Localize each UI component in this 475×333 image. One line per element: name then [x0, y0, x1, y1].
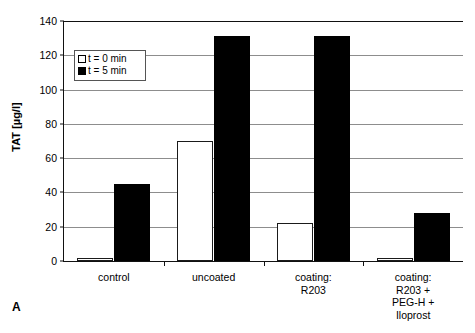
gridline-140	[64, 21, 463, 22]
y-tick-label-20: 20	[45, 221, 57, 233]
x-category-line: R203 +	[363, 284, 463, 297]
y-tick-mark-100	[60, 89, 64, 90]
x-category-label-2: uncoated	[164, 271, 264, 284]
x-category-line: coating:	[363, 271, 463, 284]
panel-label: A	[12, 300, 21, 314]
bar-t5-group1	[114, 184, 150, 261]
y-tick-mark-0	[60, 261, 64, 262]
legend-swatch-open-square-icon	[78, 55, 86, 63]
y-tick-label-80: 80	[45, 118, 57, 130]
x-category-label-4: coating:R203 +PEG-H +Iloprost	[363, 271, 463, 321]
bar-t5-group4	[414, 213, 450, 261]
bar-t0-group2	[177, 141, 213, 261]
y-tick-mark-80	[60, 123, 64, 124]
y-tick-mark-60	[60, 158, 64, 159]
legend-entry-t0: t = 0 min	[78, 53, 142, 65]
y-tick-label-60: 60	[45, 152, 57, 164]
legend-entry-t5: t = 5 min	[78, 65, 142, 77]
chart-legend: t = 0 min t = 5 min	[74, 50, 146, 81]
x-category-line: uncoated	[164, 271, 264, 284]
legend-label-t5: t = 5 min	[88, 65, 127, 77]
x-category-line: coating:	[264, 271, 364, 284]
x-category-line: PEG-H +	[363, 296, 463, 309]
x-category-line: Iloprost	[363, 309, 463, 322]
bar-t5-group3	[314, 36, 350, 261]
y-tick-label-0: 0	[51, 255, 57, 267]
x-category-line: control	[64, 271, 164, 284]
x-category-line: R203	[264, 284, 364, 297]
x-axis-separator-2	[264, 261, 265, 266]
gridline-80	[64, 124, 463, 125]
figure-panel-a: TAT [µg/l] 020406080100120140controlunco…	[0, 0, 475, 333]
y-tick-label-40: 40	[45, 186, 57, 198]
x-axis-separator-1	[164, 261, 165, 266]
y-tick-label-120: 120	[39, 49, 57, 61]
y-tick-mark-40	[60, 192, 64, 193]
x-axis-separator-3	[363, 261, 364, 266]
y-tick-mark-20	[60, 226, 64, 227]
x-category-label-3: coating:R203	[264, 271, 364, 296]
y-axis-title: TAT [µg/l]	[10, 67, 22, 187]
gridline-100	[64, 90, 463, 91]
y-tick-label-100: 100	[39, 84, 57, 96]
bar-t5-group2	[214, 36, 250, 261]
legend-swatch-filled-square-icon	[78, 67, 86, 75]
bar-t0-group1	[77, 258, 113, 261]
bar-t0-group3	[277, 223, 313, 261]
gridline-60	[64, 158, 463, 159]
bar-t0-group4	[377, 258, 413, 261]
y-tick-mark-120	[60, 55, 64, 56]
y-tick-mark-140	[60, 21, 64, 22]
y-tick-label-140: 140	[39, 15, 57, 27]
x-category-label-1: control	[64, 271, 164, 284]
legend-label-t0: t = 0 min	[88, 53, 127, 65]
